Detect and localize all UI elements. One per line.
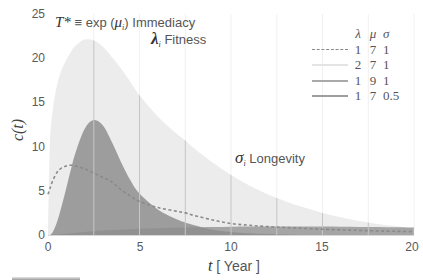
legend-lambda: 1 — [351, 88, 365, 103]
x-tick-label: 15 — [307, 241, 337, 253]
annotation-relation: ≡ exp ( — [71, 15, 115, 30]
x-tick-label: 0 — [33, 241, 63, 253]
legend-swatch-dashed — [312, 49, 348, 50]
annotation-longevity: σi Longevity — [235, 150, 305, 172]
x-axis-label: t [ Year ] — [208, 258, 260, 274]
y-axis-label: c(t) — [10, 118, 26, 142]
legend-swatch-medium — [312, 80, 348, 82]
annotation-label: Longevity — [246, 151, 305, 166]
legend-header-lambda: λ — [351, 26, 365, 41]
y-tick-label: 5 — [38, 185, 45, 197]
legend-sigma: 1 — [383, 57, 407, 72]
annotation-param: μ — [115, 14, 123, 30]
legend-header-mu: μ — [366, 26, 380, 41]
legend-lambda: 1 — [351, 42, 365, 57]
legend-mu: 7 — [366, 88, 380, 103]
legend-mu: 7 — [366, 42, 380, 57]
y-tick-label: 25 — [32, 8, 45, 20]
annotation-label: Immediacy — [129, 15, 195, 30]
annotation-label: Fitness — [161, 32, 207, 47]
x-tick-label: 5 — [125, 241, 155, 253]
annotation-symbol: T* — [55, 14, 71, 30]
legend-mu: 7 — [366, 57, 380, 72]
y-tick-label: 10 — [32, 141, 45, 153]
legend-mu: 9 — [366, 73, 380, 88]
legend-lambda: 1 — [351, 73, 365, 88]
x-tick-label: 10 — [216, 241, 246, 253]
legend-sigma: 0.5 — [383, 88, 407, 103]
annotation-fitness: λi Fitness — [151, 31, 206, 53]
legend-swatch-light — [312, 64, 348, 66]
legend-lambda: 2 — [351, 57, 365, 72]
legend-sigma: 1 — [383, 42, 407, 57]
y-tick-label: 0 — [38, 229, 45, 241]
x-tick-label: 20 — [397, 241, 423, 253]
legend-swatch-dark — [312, 95, 348, 97]
x-axis-unit: [ Year ] — [212, 258, 259, 274]
legend-header-sigma: σ — [383, 26, 407, 41]
y-tick-label: 15 — [32, 96, 45, 108]
legend-sigma: 1 — [383, 73, 407, 88]
annotation-symbol: λ — [151, 29, 159, 48]
y-tick-label: 20 — [32, 52, 45, 64]
